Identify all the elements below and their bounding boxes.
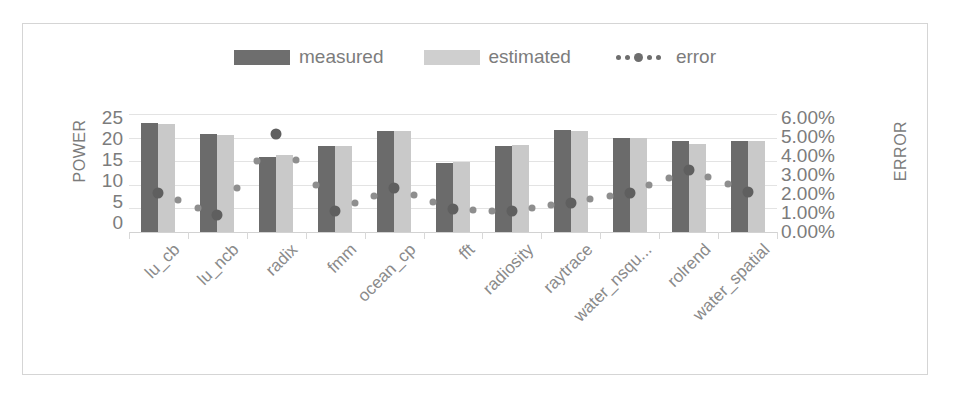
bar-estimated-0[interactable] [158,124,175,232]
bar-estimated-5[interactable] [453,162,470,232]
category-tick-marks [129,232,777,239]
y-tick-right-6: 0.00% [781,222,835,241]
bar-group-water_nsqu[interactable] [600,114,659,232]
category-tick-1 [188,232,189,239]
y-tick-right-1: 5.00% [781,127,835,146]
category-tick-4 [365,232,366,239]
x-axis-label-2: radix [262,240,302,280]
bar-measured-0[interactable] [141,123,158,232]
y-tick-right-5: 1.00% [781,203,835,222]
category-tick-5 [424,232,425,239]
category-tick-8 [600,232,601,239]
category-tick-6 [482,232,483,239]
y-tick-left-2: 15 [102,150,123,169]
category-tick-0 [129,232,130,239]
bar-measured-6[interactable] [495,146,512,232]
legend-item-estimated[interactable]: estimated [424,46,571,68]
bar-group-fft[interactable] [424,114,483,232]
x-axis-label-9: rolrend [663,240,715,292]
y-tick-left-4: 5 [112,192,123,211]
bar-measured-10[interactable] [731,141,748,232]
chart-legend: measured estimated error [23,46,927,68]
y-tick-left-5: 0 [112,213,123,232]
bar-estimated-4[interactable] [394,131,411,232]
category-tick-10 [718,232,719,239]
y-axis-ticks-left: 2520151050 [83,108,123,232]
bar-estimated-8[interactable] [630,138,647,232]
legend-item-error[interactable]: error [611,46,716,68]
x-axis-category-labels: lu_cblu_ncbradixfmmocean_cpfftradiosityr… [129,240,777,360]
category-tick-11 [777,232,778,239]
y-tick-right-0: 6.00% [781,108,835,127]
bar-group-radix[interactable] [247,114,306,232]
legend-label-estimated: estimated [489,46,571,68]
bar-estimated-2[interactable] [276,155,293,232]
x-axis-label-0: lu_cb [142,240,185,283]
bar-group-lu_cb[interactable] [129,114,188,232]
bar-measured-2[interactable] [259,157,276,232]
chart-frame: measured estimated error POWER ERROR 252… [22,23,928,375]
bar-group-radiosity[interactable] [482,114,541,232]
bar-group-rolrend[interactable] [659,114,718,232]
y-tick-left-0: 25 [102,108,123,127]
y-tick-left-1: 20 [102,129,123,148]
y-tick-right-4: 2.00% [781,184,835,203]
y-tick-right-3: 3.00% [781,165,835,184]
x-axis-label-5: fft [455,240,479,264]
bar-measured-1[interactable] [200,134,217,232]
legend-label-measured: measured [299,46,384,68]
category-tick-3 [306,232,307,239]
bar-measured-9[interactable] [672,141,689,232]
x-axis-label-1: lu_ncb [194,240,244,290]
x-axis-label-3: fmm [324,240,362,278]
y-tick-right-2: 4.00% [781,146,835,165]
legend-dotted-line-icon [611,50,667,65]
x-axis-label-4: ocean_cp [354,240,420,306]
legend-swatch-estimated-icon [424,50,480,65]
bar-group-ocean_cp[interactable] [365,114,424,232]
y-tick-left-3: 10 [102,171,123,190]
bar-measured-5[interactable] [436,163,453,232]
category-tick-9 [659,232,660,239]
plot-area [129,114,777,232]
x-axis-label-7: raytrace [539,240,597,298]
legend-swatch-measured-icon [234,50,290,65]
bar-estimated-9[interactable] [689,144,706,232]
bar-measured-3[interactable] [318,146,335,232]
y-axis-ticks-right: 6.00%5.00%4.00%3.00%2.00%1.00%0.00% [781,108,861,232]
bar-group-lu_ncb[interactable] [188,114,247,232]
category-tick-7 [541,232,542,239]
bar-measured-4[interactable] [377,131,394,232]
bar-measured-8[interactable] [613,138,630,232]
category-tick-2 [247,232,248,239]
bar-estimated-3[interactable] [335,146,352,232]
bar-group-fmm[interactable] [306,114,365,232]
bar-estimated-1[interactable] [217,135,234,232]
bar-series-container [129,114,777,232]
x-axis-label-6: radiosity [479,240,538,299]
y-axis-title-right: ERROR [892,91,910,211]
bar-group-water_spatial[interactable] [718,114,777,232]
bar-estimated-7[interactable] [571,131,588,232]
bar-group-raytrace[interactable] [541,114,600,232]
bar-estimated-6[interactable] [512,145,529,232]
bar-estimated-10[interactable] [748,141,765,232]
bar-measured-7[interactable] [554,130,571,232]
legend-label-error: error [676,46,716,68]
legend-item-measured[interactable]: measured [234,46,384,68]
